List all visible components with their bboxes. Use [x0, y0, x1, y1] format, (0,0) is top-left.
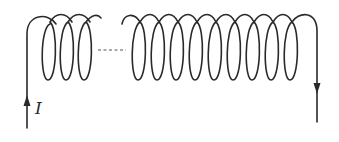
current-arrow-down-icon [314, 83, 321, 94]
current-arrow-up-icon [24, 95, 31, 106]
left-coil-group [42, 15, 101, 81]
current-label: I [35, 98, 42, 118]
solenoid-diagram [0, 0, 339, 142]
right-coil-group [122, 15, 297, 81]
